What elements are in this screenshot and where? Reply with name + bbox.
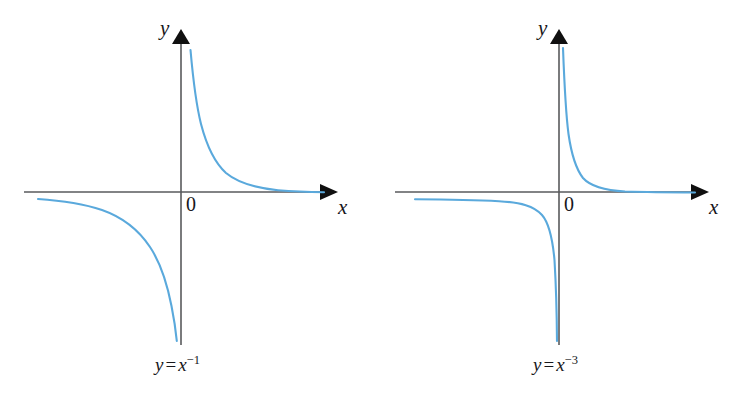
graph-panel-x-cubed-inverse: y x 0 y=x−3 xyxy=(371,0,742,400)
y-axis-label: y xyxy=(538,18,547,39)
curve-branch-quadrant-1 xyxy=(191,50,325,192)
curve-branch-quadrant-3 xyxy=(415,199,557,341)
origin-label: 0 xyxy=(564,194,574,214)
x-axis-label: x xyxy=(709,197,718,218)
equation-equals: = xyxy=(541,354,556,375)
equation-base: x xyxy=(556,354,564,375)
y-axis-arrowhead xyxy=(172,29,190,44)
origin-label: 0 xyxy=(186,194,196,214)
curve-branch-quadrant-1 xyxy=(563,48,695,193)
equation-exponent: −1 xyxy=(187,353,200,367)
y-axis-arrowhead xyxy=(550,29,568,44)
graph-panel-x-inverse: y x 0 y=x−1 xyxy=(0,0,371,400)
equation-caption: y=x−1 xyxy=(155,355,200,374)
power-function-figure: y x 0 y=x−1 y x 0 y=x−3 xyxy=(0,0,742,400)
equation-equals: = xyxy=(163,354,178,375)
equation-base: x xyxy=(178,354,186,375)
y-axis-label: y xyxy=(160,18,169,39)
x-axis-label: x xyxy=(338,197,347,218)
equation-caption: y=x−3 xyxy=(533,355,578,374)
curve-branch-quadrant-3 xyxy=(38,199,177,341)
equation-exponent: −3 xyxy=(565,353,578,367)
graph-svg-x-cubed-inverse xyxy=(371,0,742,400)
